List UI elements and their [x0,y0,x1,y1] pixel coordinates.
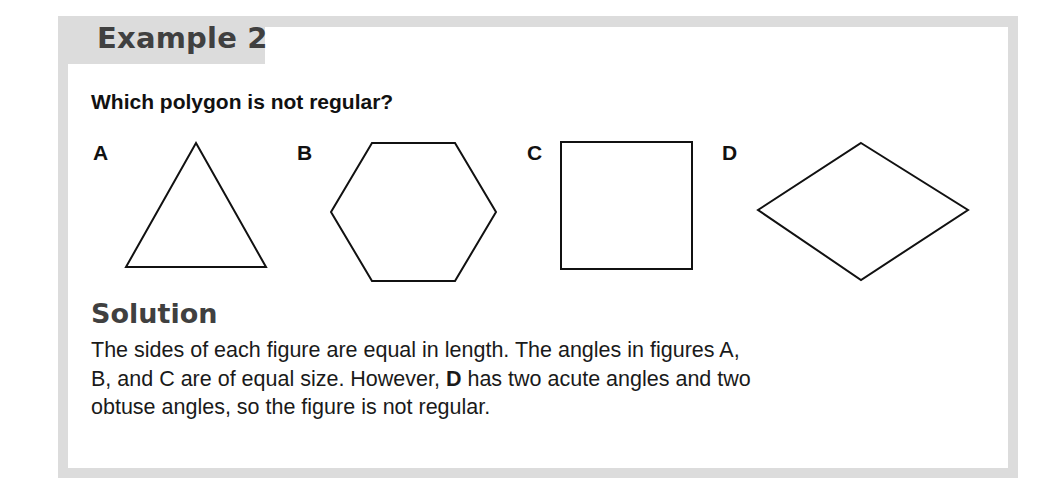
hexagon-figure [331,143,496,281]
solution-answer-bold: D [446,367,462,391]
solution-line-2: B, and C are of equal size. However, D h… [91,365,991,394]
solution-line-1: The sides of each figure are equal in le… [91,336,991,365]
solution-title: Solution [91,296,217,332]
solution-line-2-start: B, and C are of equal size. However, [91,367,446,391]
rhombus-figure [758,143,968,280]
square-figure [561,142,692,269]
polygon-figures [0,0,1052,497]
solution-text: The sides of each figure are equal in le… [91,336,991,422]
solution-line-3: obtuse angles, so the figure is not regu… [91,393,991,422]
solution-line-2-end: has two acute angles and two [461,367,750,391]
triangle-figure [126,143,266,267]
